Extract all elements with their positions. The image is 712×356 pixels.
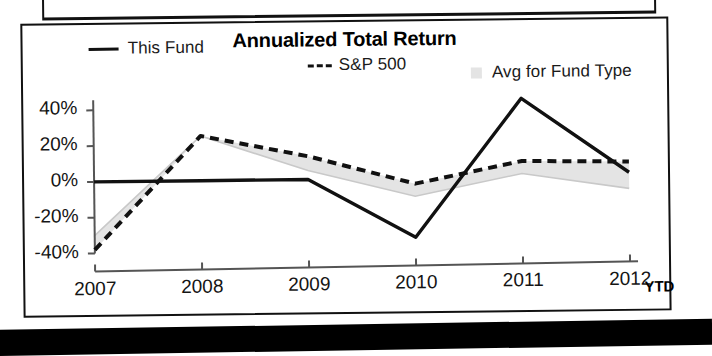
x-axis-tick-label: 2009 [274, 273, 344, 296]
x-axis-labels: 200720082009201020112012YTD [22, 18, 669, 315]
x-axis-tick-label: 2008 [167, 275, 237, 298]
plot-area: 40%20%0%-20%-40% 20072008200920102011201… [22, 18, 669, 315]
x-axis-tick-label: 2011 [488, 269, 558, 292]
chart-frame: Annualized Total Return This Fund S&P 50… [20, 16, 671, 317]
x-axis-tick-label: 2010 [381, 271, 451, 294]
x-axis-ytd-label: YTD [644, 277, 674, 294]
x-axis-tick-label: 2007 [60, 277, 130, 300]
document-sheet: Annualized Total Return This Fund S&P 50… [0, 0, 703, 348]
